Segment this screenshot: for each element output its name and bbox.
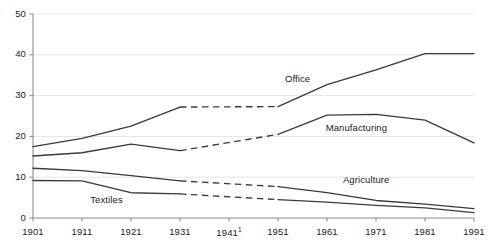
y-axis-label-20: 20 [0, 130, 26, 141]
y-axis-label-50: 50 [0, 8, 26, 19]
series-label-textiles: Textiles [90, 194, 122, 205]
y-axis-label-40: 40 [0, 48, 26, 59]
x-axis-label-1901: 1901 [7, 226, 59, 237]
series-label-office: Office [285, 73, 310, 84]
x-axis-footnote-marker: 1 [238, 226, 242, 233]
series-line-manufacturing-solid-left [33, 144, 180, 156]
series-label-manufacturing: Manufacturing [326, 122, 388, 133]
series-line-agriculture-solid-left [33, 168, 180, 181]
x-axis-label-1971: 1971 [350, 226, 402, 237]
y-axis-label-10: 10 [0, 171, 26, 182]
y-axis-label-0: 0 [0, 212, 26, 223]
x-axis-label-1911: 1911 [56, 226, 108, 237]
x-axis-label-1951: 1951 [252, 226, 304, 237]
gridlines [33, 14, 474, 177]
x-axis-label-1941: 19411 [203, 226, 255, 238]
series-line-textiles-dashed [180, 194, 278, 200]
series-line-agriculture-dashed [180, 181, 278, 187]
y-axis-label-30: 30 [0, 89, 26, 100]
data-series [33, 54, 474, 213]
series-line-textiles-solid-left [33, 180, 180, 193]
series-line-office-solid-left [33, 107, 180, 147]
x-axis-label-1921: 1921 [105, 226, 157, 237]
chart-axes [33, 14, 474, 218]
x-axis-label-1991: 1991 [448, 226, 489, 237]
x-axis-label-1961: 1961 [301, 226, 353, 237]
series-label-agriculture: Agriculture [343, 174, 390, 185]
x-axis-label-1931: 1931 [154, 226, 206, 237]
x-axis-label-1981: 1981 [399, 226, 451, 237]
